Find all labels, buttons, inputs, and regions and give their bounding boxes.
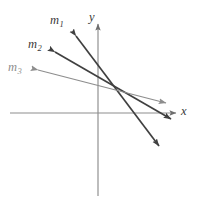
x-axis-label: x	[181, 105, 187, 118]
line-label-m2-base: m	[28, 37, 37, 51]
line-label-m1: m1	[50, 14, 64, 28]
line-slope-diagram: y x m1 m2 m3	[0, 0, 198, 203]
line-label-m3-subscript: 3	[17, 66, 22, 76]
line-label-m2-subscript: 2	[37, 43, 42, 53]
y-axis-label: y	[89, 11, 95, 24]
line-label-m1-subscript: 1	[59, 19, 64, 29]
diagram-canvas	[0, 0, 198, 203]
line-label-m3: m3	[8, 61, 22, 75]
slope-line-m_3	[38, 70, 166, 103]
line-label-m2: m2	[28, 38, 42, 52]
slope-lines-group	[38, 36, 171, 146]
slope-line-m_2	[55, 52, 171, 119]
line-label-m1-base: m	[50, 13, 59, 27]
line-label-m3-base: m	[8, 60, 17, 74]
